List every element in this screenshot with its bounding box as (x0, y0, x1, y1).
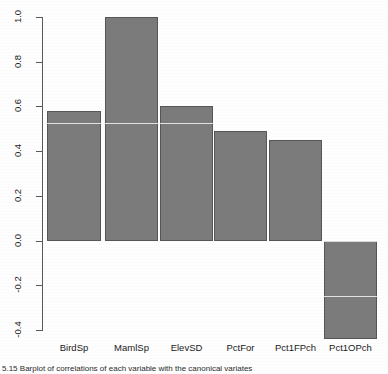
y-axis-line (42, 17, 43, 331)
y-tick-mark (36, 106, 42, 107)
bar-pctfor (214, 131, 267, 241)
scanline-artifact (44, 241, 384, 242)
scanline-artifact (44, 296, 384, 297)
x-label-pct1opch: Pct1OPch (316, 342, 385, 353)
y-tick-label: 0.6 (12, 91, 23, 121)
y-tick-mark (36, 17, 42, 18)
y-tick-label: 0.0 (12, 225, 23, 255)
scanline-artifact (44, 123, 384, 124)
y-tick-label: -0.4 (12, 315, 23, 345)
bar-elevsd (160, 106, 213, 240)
figure-caption: 5.15 Barplot of correlations of each var… (2, 364, 386, 374)
y-tick-mark (36, 151, 42, 152)
figure-container: 1.00.80.60.40.20.0-0.2-0.4 BirdSpMamlSpE… (0, 0, 388, 374)
y-tick-mark (36, 62, 42, 63)
bar-mamlsp (105, 17, 158, 241)
y-tick-label: 0.8 (12, 46, 23, 76)
y-tick-mark (36, 285, 42, 286)
y-tick-label: 1.0 (12, 2, 23, 32)
barplot: 1.00.80.60.40.20.0-0.2-0.4 BirdSpMamlSpE… (0, 0, 388, 374)
y-tick-label: 0.4 (12, 136, 23, 166)
y-tick-label: 0.2 (12, 180, 23, 210)
y-tick-mark (36, 196, 42, 197)
bar-pct1fpch (269, 140, 322, 241)
bar-birdsp (47, 111, 101, 241)
bar-pct1opch (324, 241, 377, 339)
y-tick-mark (36, 330, 42, 331)
y-tick-label: -0.2 (12, 270, 23, 300)
y-tick-mark (36, 241, 42, 242)
